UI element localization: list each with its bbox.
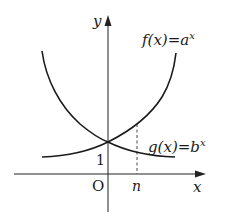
- f-label-text: f(x)=a: [141, 31, 189, 49]
- exponential-graph: y x O 1 n f(x)=ax g(x)=bx: [0, 0, 241, 216]
- y-axis-label: y: [92, 12, 102, 30]
- f-label-exp: x: [189, 30, 195, 41]
- n-label: n: [132, 178, 141, 194]
- g-label-exp: x: [200, 137, 206, 148]
- x-axis-arrow-icon: [195, 171, 206, 178]
- y-intercept-label: 1: [96, 152, 105, 168]
- f-curve-label: f(x)=ax: [141, 30, 195, 49]
- g-label-text: g(x)=b: [148, 138, 200, 156]
- y-axis-arrow-icon: [105, 15, 112, 26]
- x-axis-label: x: [193, 178, 202, 196]
- origin-label: O: [92, 177, 104, 195]
- g-curve-label: g(x)=bx: [148, 137, 206, 156]
